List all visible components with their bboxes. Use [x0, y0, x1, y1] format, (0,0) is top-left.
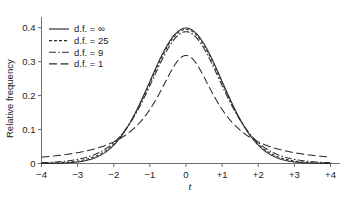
x-tick-label: +3 — [289, 169, 300, 180]
y-tick-label: 0 — [30, 158, 35, 169]
y-axis-title: Relative frequency — [4, 59, 15, 138]
x-tick-label: −1 — [144, 169, 155, 180]
curve-df-1 — [42, 55, 331, 157]
x-tick-label: 0 — [183, 169, 188, 180]
y-tick-label: 0.1 — [22, 124, 35, 135]
x-tick-label: −4 — [36, 169, 47, 180]
t-distribution-chart: Relative frequency 00.10.20.30.4 −4−3−2−… — [0, 0, 346, 198]
y-tick-label: 0.2 — [22, 90, 35, 101]
legend-label: d.f. = 25 — [74, 35, 109, 46]
legend-label: d.f. = ∞ — [74, 23, 105, 34]
y-tick-label: 0.3 — [22, 56, 35, 67]
x-axis-title: t — [188, 180, 192, 192]
y-axis-ticks: 00.10.20.30.4 — [22, 22, 41, 169]
x-tick-label: +2 — [253, 169, 264, 180]
x-tick-label: −3 — [72, 169, 83, 180]
x-tick-label: −2 — [108, 169, 119, 180]
chart-canvas: Relative frequency 00.10.20.30.4 −4−3−2−… — [0, 0, 346, 198]
legend-label: d.f. = 9 — [74, 47, 103, 58]
y-tick-label: 0.4 — [22, 22, 35, 33]
x-axis-ticks: −4−3−2−10+1+2+3+4 — [36, 164, 336, 180]
x-tick-label: +4 — [325, 169, 336, 180]
legend-label: d.f. = 1 — [74, 58, 103, 69]
legend: d.f. = ∞d.f. = 25d.f. = 9d.f. = 1 — [49, 23, 109, 69]
x-tick-label: +1 — [217, 169, 228, 180]
